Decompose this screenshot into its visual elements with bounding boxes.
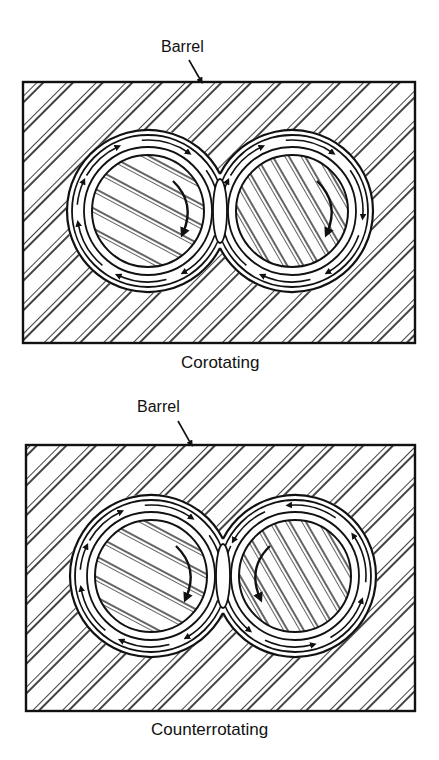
barrel-label-bottom: Barrel bbox=[137, 398, 180, 416]
caption-counterrotating: Counterrotating bbox=[151, 720, 268, 740]
barrel-pointer-arrow-icon bbox=[178, 421, 191, 444]
twin-screw-diagram bbox=[0, 0, 439, 760]
barrel-label-top: Barrel bbox=[161, 38, 204, 56]
panel-corotating bbox=[23, 60, 415, 343]
caption-corotating: Corotating bbox=[181, 353, 259, 373]
left-screw bbox=[72, 135, 224, 287]
intermesh-region bbox=[213, 179, 227, 243]
barrel-pointer-arrow-icon bbox=[189, 60, 201, 81]
left-screw bbox=[75, 500, 227, 652]
right-screw bbox=[216, 135, 368, 287]
intermesh-region bbox=[216, 544, 230, 608]
panel-counterrotating bbox=[26, 421, 415, 711]
right-screw bbox=[219, 500, 371, 652]
